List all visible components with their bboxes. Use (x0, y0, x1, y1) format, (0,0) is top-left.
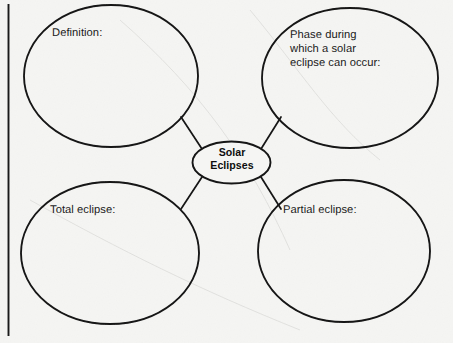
worksheet-page: Definition: Phase during which a solar e… (0, 0, 453, 343)
bubble-label-partial-eclipse: Partial eclipse: (283, 203, 357, 217)
bubble-label-definition: Definition: (52, 26, 102, 40)
bubble-label-phase: Phase during which a solar eclipse can o… (290, 28, 380, 71)
bubble-label-total-eclipse: Total eclipse: (50, 203, 115, 217)
center-topic-label: Solar Eclipses (193, 146, 271, 173)
